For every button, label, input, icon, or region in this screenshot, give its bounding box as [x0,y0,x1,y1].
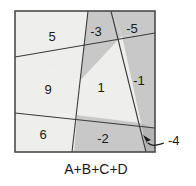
region-label-1: 1 [97,80,104,95]
region-label-5: 5 [48,29,55,44]
region-label-6: 6 [39,127,46,142]
region-label-n2: -2 [97,131,109,146]
region-label-n1: -1 [133,73,145,88]
region-label-n5: -5 [126,21,138,36]
figure-caption: A+B+C+D [64,161,127,177]
callout-label-n4: -4 [168,133,180,148]
arrangement-figure: 5 -3 -5 9 1 -1 6 -2 -4 A+B+C+D [0,0,196,186]
region-label-9: 9 [44,82,51,97]
region-label-n3: -3 [90,24,102,39]
